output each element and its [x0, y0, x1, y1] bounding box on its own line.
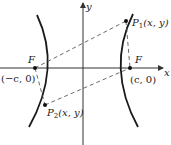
focus-left-label: F — [27, 54, 36, 65]
dashed-line-p2-f2 — [45, 68, 130, 105]
focus-right-coords: (c, 0) — [130, 74, 156, 85]
p1-point — [124, 19, 128, 23]
y-axis-label: y — [85, 1, 92, 12]
p2-label: P2(x, y) — [46, 107, 84, 120]
dashed-line-f1-p1 — [35, 21, 126, 68]
hyperbola-left-branch — [29, 15, 48, 127]
hyperbola-right-branch — [121, 14, 138, 127]
x-axis-label: x — [164, 67, 170, 78]
hyperbola-diagram: y x F (−c, 0) F (c, 0) P1(x, y) P2(x, y) — [0, 0, 171, 145]
focus-left-coords: (−c, 0) — [1, 73, 36, 84]
dashed-line-p1-f2 — [126, 21, 130, 68]
focus-left-point — [33, 66, 37, 70]
p1-coords: (x, y) — [143, 17, 169, 28]
focus-right-point — [128, 66, 132, 70]
dashed-line-f1-p2 — [35, 68, 45, 105]
focus-right-label: F — [134, 54, 143, 65]
p2-coords: (x, y) — [58, 107, 84, 118]
p1-label: P1(x, y) — [131, 17, 169, 30]
